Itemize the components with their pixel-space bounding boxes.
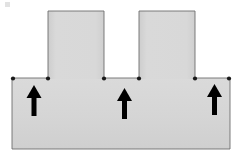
base-slab [12, 78, 230, 149]
right-pillar [139, 11, 195, 79]
scan-artifact-mark [5, 2, 10, 7]
arrow-shaft [122, 99, 127, 120]
arrow-shaft [32, 96, 37, 117]
arrow-shaft [212, 95, 217, 116]
vertex-notch-left [102, 76, 106, 80]
section-fill-group [12, 11, 230, 149]
t-section-force-diagram [0, 0, 239, 162]
vertex-notch-right [137, 76, 141, 80]
vertex-left-outer [11, 76, 15, 80]
vertex-left-pillar-base [46, 76, 50, 80]
left-pillar [48, 11, 104, 79]
vertex-right-outer [227, 76, 231, 80]
figure-canvas [0, 0, 239, 162]
vertex-right-pillar-base [193, 76, 197, 80]
